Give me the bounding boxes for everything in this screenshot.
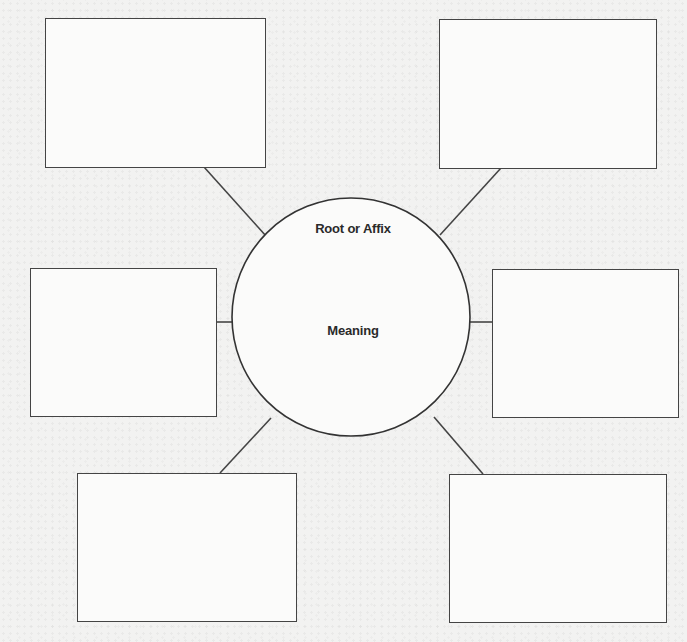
connector-top-right [440, 168, 501, 235]
box-top-right[interactable] [439, 19, 657, 169]
box-middle-left[interactable] [30, 268, 217, 417]
hub-subtitle: Meaning [273, 323, 433, 338]
connector-top-left [204, 167, 266, 236]
box-bottom-right[interactable] [449, 474, 667, 623]
connector-bottom-right [434, 417, 483, 474]
box-middle-right[interactable] [492, 269, 679, 418]
connector-bottom-left [220, 418, 271, 473]
box-top-left[interactable] [45, 18, 266, 168]
hub-title: Root or Affix [273, 221, 433, 236]
box-bottom-left[interactable] [77, 473, 297, 622]
